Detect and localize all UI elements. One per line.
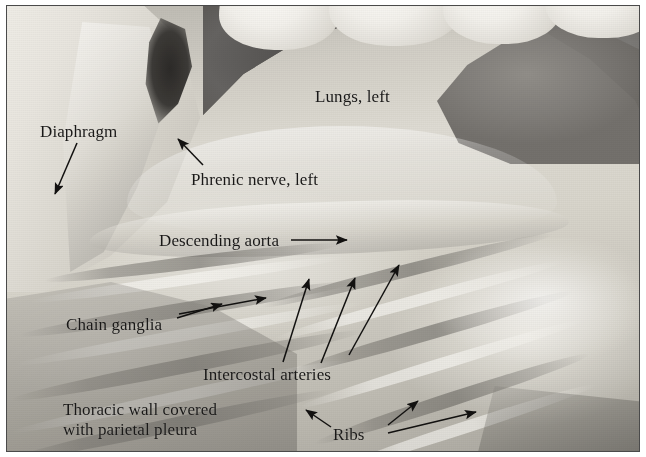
label-chain-ganglia: Chain ganglia [66, 315, 162, 335]
highlight-region [425, 238, 639, 370]
label-intercostal-arteries: Intercostal arteries [203, 365, 331, 385]
label-thoracic-wall-line1: Thoracic wall covered [63, 400, 217, 420]
figure-page: Diaphragm Lungs, left Phrenic nerve, lef… [0, 0, 646, 457]
label-thoracic-wall-line2: with parietal pleura [63, 420, 197, 440]
label-lungs-left: Lungs, left [315, 87, 390, 107]
label-ribs: Ribs [333, 425, 365, 445]
label-descending-aorta: Descending aorta [159, 231, 279, 251]
dissection-photograph: Diaphragm Lungs, left Phrenic nerve, lef… [7, 6, 639, 451]
photo-frame: Diaphragm Lungs, left Phrenic nerve, lef… [6, 5, 640, 452]
label-phrenic-nerve: Phrenic nerve, left [191, 170, 318, 190]
label-diaphragm: Diaphragm [40, 122, 117, 142]
